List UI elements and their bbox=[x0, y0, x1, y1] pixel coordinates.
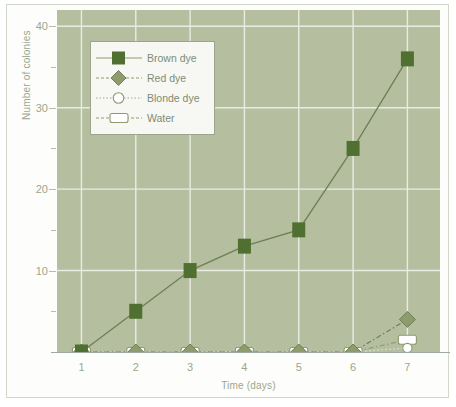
y-tick-label: 20 bbox=[36, 183, 48, 195]
datapoint-brown-dye bbox=[292, 222, 305, 237]
datapoint-blonde-dye bbox=[403, 343, 412, 352]
y-tick-mark bbox=[49, 271, 56, 272]
legend-item-blonde-dye: Blonde dye bbox=[95, 88, 210, 108]
chart-legend: Brown dye Red dye Blonde bbox=[90, 41, 215, 135]
plot-area: 10203040 1234567 Number of colonies Time… bbox=[57, 10, 440, 352]
x-axis-line bbox=[51, 352, 450, 353]
legend-label: Brown dye bbox=[147, 52, 197, 64]
y-tick-mark-minor bbox=[51, 148, 56, 149]
y-tick-mark bbox=[49, 26, 56, 27]
y-tick-mark-minor bbox=[51, 311, 56, 312]
datapoint-brown-dye bbox=[75, 345, 88, 353]
legend-label: Blonde dye bbox=[147, 92, 200, 104]
legend-item-red-dye: Red dye bbox=[95, 68, 210, 88]
datapoint-brown-dye bbox=[129, 304, 142, 319]
datapoint-red-dye bbox=[399, 311, 415, 327]
legend-item-water: Water bbox=[95, 108, 210, 128]
y-tick-mark-minor bbox=[51, 67, 56, 68]
datapoint-brown-dye bbox=[184, 263, 197, 278]
y-tick-label: 10 bbox=[36, 265, 48, 277]
legend-label: Red dye bbox=[147, 72, 186, 84]
legend-swatch-filled-square-icon bbox=[95, 49, 143, 67]
x-axis-title: Time (days) bbox=[57, 380, 440, 391]
x-tick-label: 6 bbox=[350, 361, 356, 373]
x-tick-label: 4 bbox=[241, 361, 247, 373]
x-tick-label: 5 bbox=[296, 361, 302, 373]
y-tick-label: 40 bbox=[36, 20, 48, 32]
legend-label: Water bbox=[147, 112, 175, 124]
y-tick-mark-minor bbox=[51, 230, 56, 231]
y-axis-title: Number of colonies bbox=[21, 0, 32, 120]
legend-swatch-open-circle-icon bbox=[95, 89, 143, 107]
legend-item-brown-dye: Brown dye bbox=[95, 48, 210, 68]
y-tick-mark bbox=[49, 189, 56, 190]
y-tick-label: 30 bbox=[36, 102, 48, 114]
x-tick-label: 1 bbox=[78, 361, 84, 373]
legend-swatch-open-rectangle-icon bbox=[95, 109, 143, 127]
legend-swatch-filled-diamond-icon bbox=[95, 69, 143, 87]
x-tick-label: 7 bbox=[404, 361, 410, 373]
chart-figure: 10203040 1234567 Number of colonies Time… bbox=[0, 0, 456, 407]
datapoint-brown-dye bbox=[238, 239, 251, 254]
datapoint-brown-dye bbox=[401, 51, 414, 66]
x-tick-label: 3 bbox=[187, 361, 193, 373]
x-tick-label: 2 bbox=[133, 361, 139, 373]
y-tick-mark bbox=[49, 108, 56, 109]
datapoint-brown-dye bbox=[347, 141, 360, 156]
